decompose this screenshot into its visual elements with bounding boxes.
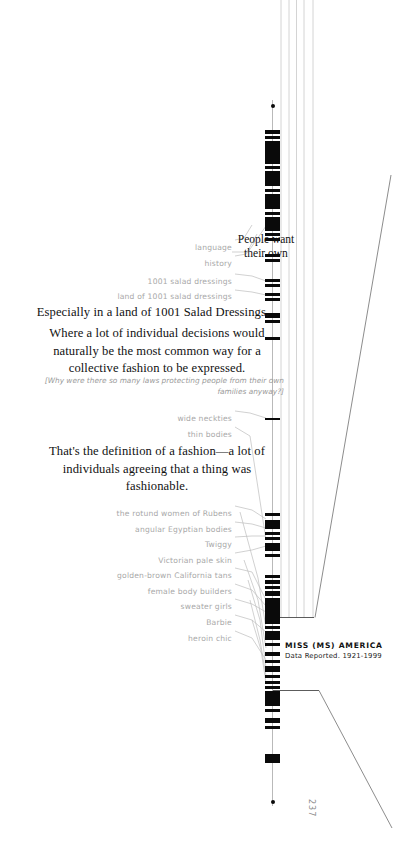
paragraph-line: individuals agreeing that a thing was [30,461,284,479]
chart-band [265,575,280,578]
tick-label-wide-neckties: wide neckties [0,414,232,423]
callout-people-want: People want their own [233,232,299,260]
chart-endpoint-dot [271,104,275,108]
paragraph-line: naturally be the most common way for a [30,343,284,361]
chart-band [265,513,280,516]
chart-band [265,293,280,296]
chart-band [265,675,280,678]
chart-band [265,580,280,584]
paragraph-line: Especially in a land of 1001 Salad Dress… [22,304,284,322]
chart-caption-title: MISS (MS) AMERICA [285,641,383,650]
chart-band [265,171,280,186]
chart-band [265,726,280,729]
paragraph-salad-dressings: Especially in a land of 1001 Salad Dress… [22,304,284,322]
callout-line-2: their own [233,246,299,260]
chart-band [265,754,280,763]
chart-band [265,279,280,282]
tick-label-salad-dressings-1001: 1001 salad dressings [0,277,232,286]
tick-label-barbie: Barbie [0,618,232,627]
chart-band [265,130,280,134]
chart-caption-subtitle: Data Reported. 1921-1999 [285,652,383,660]
paragraph-collective-fashion: Where a lot of individual decisions woul… [30,325,284,378]
tick-label-thin-bodies: thin bodies [0,430,232,439]
chart-band [265,141,280,164]
tick-label-sweater-girls: sweater girls [0,602,232,611]
callout-line-1: People want [233,232,299,246]
tick-label-history: history [0,259,232,268]
tick-label-twiggy: Twiggy [0,540,232,549]
chart-band [265,284,280,287]
chart-band [265,626,280,629]
aside-laws-note: [Why were there so many laws protecting … [44,376,284,397]
chart-band [265,136,280,139]
paragraph-line: fashionable. [30,478,284,496]
chart-band [265,217,280,231]
page-canvas: languagehistory1001 salad dressingsland … [0,0,413,846]
chart-caption: MISS (MS) AMERICA Data Reported. 1921-19… [285,641,383,660]
chart-band [265,166,280,169]
tick-label-language: language [0,243,232,252]
diagonal-group [315,175,392,828]
chart-band [265,532,280,535]
page-folio-number: 237 [307,799,316,817]
chart-band [265,298,280,301]
paragraph-line: Where a lot of individual decisions woul… [30,325,284,343]
chart-band [265,681,280,684]
rule-layer [0,0,413,846]
tick-label-land-of-1001: land of 1001 salad dressings [0,292,232,301]
chart-band [265,520,280,529]
paragraph-line: collective fashion to be expressed. [30,360,284,378]
chart-band [265,554,280,557]
aside-line: families anyway?] [44,387,284,398]
tick-label-california-tans: golden-brown California tans [0,571,232,580]
chart-band [265,543,280,551]
chart-band [265,591,280,596]
diagonal-lower-rule [319,691,392,829]
chart-band [265,537,280,540]
chart-band [265,686,280,689]
chart-band [265,709,280,712]
paragraph-line: That's the definition of a fashion—a lot… [30,443,284,461]
tick-label-female-body-builders: female body builders [0,587,232,596]
chart-band [265,666,280,672]
tick-label-rotund-rubens: the rotund women of Rubens [0,509,232,518]
tick-label-angular-egyptian: angular Egyptian bodies [0,525,232,534]
chart-band [265,718,280,723]
chart-band [265,652,280,656]
aside-line: [Why were there so many laws protecting … [44,376,284,387]
chart-band [265,418,280,420]
chart-band [265,691,280,706]
chart-band [265,631,280,640]
chart-band [265,194,280,209]
vertical-rules-group [281,0,313,618]
chart-band [265,598,280,624]
tick-label-heroin-chic: heroin chic [0,634,232,643]
diagonal-upper-rule [315,175,391,618]
chart-band [265,660,280,663]
chart-endpoint-dot [271,800,275,804]
tick-label-victorian-pale: Victorian pale skin [0,556,232,565]
chart-band [265,212,280,215]
paragraph-definition-of-fashion: That's the definition of a fashion—a lot… [30,443,284,496]
chart-band [265,189,280,192]
chart-band [265,643,280,646]
chart-band [265,586,280,589]
